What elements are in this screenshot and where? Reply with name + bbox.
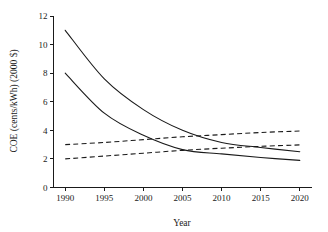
line-chart: 024681012 1990199520002005201020152020 Y…	[0, 0, 328, 232]
y-tick-group	[50, 16, 54, 188]
y-tick-label: 6	[43, 97, 48, 107]
y-tick-label: 4	[43, 126, 48, 136]
y-tick-label: 0	[43, 183, 48, 193]
x-tick-label: 2005	[174, 193, 193, 203]
series-line-lower-solid-declining	[65, 73, 300, 160]
series-line-lower-dashed-rising	[65, 145, 300, 159]
x-tick-label-group: 1990199520002005201020152020	[56, 193, 309, 203]
x-tick-label: 2020	[291, 193, 310, 203]
x-axis-title: Year	[173, 218, 191, 228]
y-tick-label: 8	[43, 68, 48, 78]
y-axis-title: COE (cents/kWh) (2000 $)	[9, 49, 20, 152]
x-tick-label: 2000	[134, 193, 153, 203]
data-series-group	[65, 30, 300, 160]
x-tick-group	[65, 188, 300, 192]
x-tick-label: 2015	[252, 193, 271, 203]
y-tick-label: 12	[39, 11, 48, 21]
y-tick-label: 2	[43, 154, 48, 164]
x-tick-label: 1990	[56, 193, 75, 203]
series-line-upper-dashed-rising	[65, 131, 300, 145]
x-tick-label: 1995	[95, 193, 114, 203]
y-tick-label: 10	[39, 40, 49, 50]
chart-figure: 024681012 1990199520002005201020152020 Y…	[0, 0, 328, 232]
series-line-upper-solid-declining	[65, 30, 300, 151]
x-tick-label: 2010	[213, 193, 232, 203]
y-tick-label-group: 024681012	[39, 11, 49, 193]
